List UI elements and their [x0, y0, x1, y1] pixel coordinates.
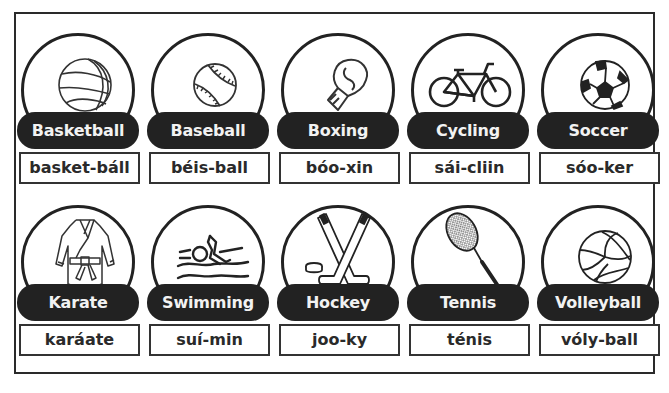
pronunciation-box: karáate	[19, 324, 140, 356]
sport-label: Boxing	[277, 112, 399, 149]
baseball-icon	[178, 48, 252, 122]
sport-label: Basketball	[17, 112, 139, 149]
card-soccer: Soccer sóo-ker	[537, 33, 661, 185]
card-karate: Karate karáate	[17, 205, 141, 357]
bicycle-icon	[426, 48, 516, 122]
pronunciation-box: joo-ky	[279, 324, 400, 356]
karate-gi-icon	[48, 214, 122, 294]
pronunciation-box: sái-cliin	[409, 152, 530, 184]
card-basketball: Basketball basket-báll	[17, 33, 141, 185]
tennis-racket-icon	[438, 210, 512, 294]
soccer-ball-icon	[568, 48, 642, 122]
pronunciation-box: sóo-ker	[539, 152, 660, 184]
sport-label: Hockey	[277, 284, 399, 321]
card-volleyball: Volleyball vóly-ball	[537, 205, 661, 357]
basketball-icon	[48, 48, 122, 122]
sport-label: Soccer	[537, 112, 659, 149]
pronunciation-box: béis-ball	[149, 152, 270, 184]
sport-label: Swimming	[147, 284, 269, 321]
pronunciation-box: suí-min	[149, 324, 270, 356]
sport-label: Karate	[17, 284, 139, 321]
hockey-sticks-icon	[302, 210, 386, 294]
pronunciation-box: ténis	[409, 324, 530, 356]
card-swimming: Swimming suí-min	[147, 205, 271, 357]
sport-label: Volleyball	[537, 284, 659, 321]
pronunciation-box: basket-báll	[19, 152, 140, 184]
sport-label: Cycling	[407, 112, 529, 149]
volleyball-icon	[568, 220, 642, 294]
pronunciation-box: vóly-ball	[539, 324, 660, 356]
sport-label: Baseball	[147, 112, 269, 149]
boxing-glove-icon	[308, 48, 382, 122]
card-baseball: Baseball béis-ball	[147, 33, 271, 185]
pronunciation-box: bóo-xin	[279, 152, 400, 184]
card-cycling: Cycling sái-cliin	[407, 33, 531, 185]
card-hockey: Hockey joo-ky	[277, 205, 401, 357]
sport-label: Tennis	[407, 284, 529, 321]
swimmer-icon	[170, 220, 256, 294]
card-boxing: Boxing bóo-xin	[277, 33, 401, 185]
card-tennis: Tennis ténis	[407, 205, 531, 357]
